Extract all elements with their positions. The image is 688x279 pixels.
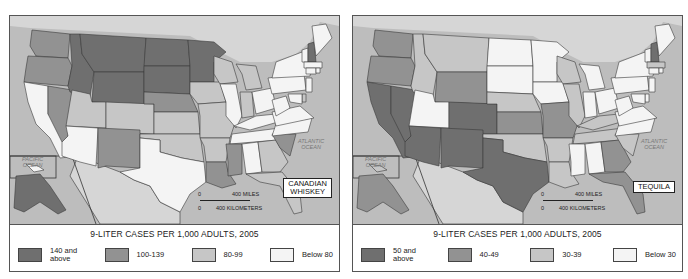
scale-bar: 0 400 MILES 0 400 KILOMETERS bbox=[539, 191, 629, 216]
beverage-label: TEQUILA bbox=[633, 181, 675, 193]
atlantic-ocean-label: ATLANTIC OCEAN bbox=[298, 138, 324, 150]
legend-swatch bbox=[361, 248, 385, 262]
state-wi bbox=[557, 56, 581, 84]
state-ks bbox=[497, 112, 543, 134]
scale-miles-label: 400 MILES bbox=[575, 191, 602, 197]
state-nj bbox=[306, 78, 312, 92]
state-vt bbox=[645, 48, 651, 62]
state-wy bbox=[435, 72, 487, 104]
state-in bbox=[240, 92, 254, 118]
state-ks bbox=[154, 112, 200, 134]
legend-swatch bbox=[105, 248, 129, 262]
state-ma bbox=[304, 62, 322, 68]
legend-label: 80-99 bbox=[224, 251, 243, 259]
state-nd bbox=[144, 38, 190, 66]
legend-label: 140 and above bbox=[50, 247, 77, 263]
legend-title: 9-LITER CASES PER 1,000 ADULTS, 2005 bbox=[353, 229, 682, 239]
legend-item-class-1: 140 and above bbox=[18, 247, 77, 263]
scale-bar: 0 400 MILES 0 400 KILOMETERS bbox=[196, 191, 286, 216]
pacific-ocean-label: PACIFIC OCEAN bbox=[365, 156, 386, 168]
state-in bbox=[583, 92, 597, 118]
scale-km-label: 400 KILOMETERS bbox=[216, 205, 262, 211]
legend: 9-LITER CASES PER 1,000 ADULTS, 2005 50 … bbox=[353, 225, 682, 271]
legend-swatch bbox=[270, 248, 294, 262]
state-mt bbox=[80, 34, 146, 72]
state-ms bbox=[226, 144, 242, 176]
atlantic-ocean-label: ATLANTIC OCEAN bbox=[641, 138, 667, 150]
legend-label: Below 80 bbox=[302, 251, 333, 259]
state-md bbox=[288, 94, 302, 104]
state-ri bbox=[316, 68, 320, 73]
state-de bbox=[645, 94, 649, 102]
legend-swatch bbox=[530, 248, 554, 262]
scale-zero-miles: 0 bbox=[541, 191, 544, 197]
state-ak bbox=[14, 174, 66, 214]
scale-km-label: 400 KILOMETERS bbox=[559, 205, 605, 211]
state-sd bbox=[487, 66, 533, 94]
scale-zero-miles: 0 bbox=[198, 191, 201, 197]
state-ar bbox=[200, 138, 230, 162]
legend-item-class-4: Below 30 bbox=[613, 248, 676, 262]
legend-item-class-3: 80-99 bbox=[192, 248, 243, 262]
state-ms bbox=[569, 144, 585, 176]
legend-label: Below 30 bbox=[645, 251, 676, 259]
state-de bbox=[302, 94, 306, 102]
legend-swatch bbox=[18, 248, 42, 262]
state-wa bbox=[30, 30, 70, 58]
legend-swatch bbox=[448, 248, 472, 262]
state-wi bbox=[214, 56, 238, 84]
state-mt bbox=[423, 34, 489, 72]
state-az bbox=[405, 126, 441, 166]
canadian-whiskey-map-panel: PACIFIC OCEAN ATLANTIC OCEAN CANADIAN WH… bbox=[9, 15, 340, 272]
state-ct bbox=[306, 68, 316, 74]
state-nm bbox=[441, 128, 483, 168]
state-md bbox=[631, 94, 645, 104]
scale-miles-label: 400 MILES bbox=[232, 191, 259, 197]
state-ar bbox=[543, 138, 573, 162]
state-wy bbox=[92, 72, 144, 104]
state-ak bbox=[357, 174, 409, 214]
state-mi bbox=[236, 64, 262, 90]
legend-label: 100-139 bbox=[137, 251, 165, 259]
legend-label: 50 and above bbox=[393, 247, 416, 263]
state-nd bbox=[487, 38, 533, 66]
legend-swatch bbox=[613, 248, 637, 262]
tequila-map-panel: PACIFIC OCEAN ATLANTIC OCEAN TEQUILA 0 4… bbox=[352, 15, 683, 272]
state-ma bbox=[647, 62, 665, 68]
state-wa bbox=[373, 30, 413, 58]
state-or bbox=[24, 56, 72, 86]
legend-item-class-1: 50 and above bbox=[361, 247, 416, 263]
scale-zero-km: 0 bbox=[198, 205, 201, 211]
state-vt bbox=[302, 48, 308, 62]
beverage-label: CANADIAN WHISKEY bbox=[283, 178, 332, 198]
scale-zero-km: 0 bbox=[541, 205, 544, 211]
map-area: PACIFIC OCEAN ATLANTIC OCEAN CANADIAN WH… bbox=[10, 16, 339, 225]
state-sd bbox=[144, 66, 190, 94]
state-az bbox=[62, 126, 98, 166]
state-ct bbox=[649, 68, 659, 74]
state-nj bbox=[649, 78, 655, 92]
legend-item-class-2: 40-49 bbox=[448, 248, 499, 262]
map-area: PACIFIC OCEAN ATLANTIC OCEAN TEQUILA 0 4… bbox=[353, 16, 682, 225]
state-mi bbox=[579, 64, 605, 90]
state-or bbox=[367, 56, 415, 86]
legend-item-class-2: 100-139 bbox=[105, 248, 165, 262]
legend-item-class-4: Below 80 bbox=[270, 248, 333, 262]
state-ri bbox=[659, 68, 663, 73]
legend: 9-LITER CASES PER 1,000 ADULTS, 2005 140… bbox=[10, 225, 339, 271]
legend-label: 30-39 bbox=[562, 251, 581, 259]
pacific-ocean-label: PACIFIC OCEAN bbox=[22, 156, 43, 168]
state-nm bbox=[98, 128, 140, 168]
legend-title: 9-LITER CASES PER 1,000 ADULTS, 2005 bbox=[10, 229, 339, 239]
legend-swatch bbox=[192, 248, 216, 262]
legend-item-class-3: 30-39 bbox=[530, 248, 581, 262]
legend-label: 40-49 bbox=[480, 251, 499, 259]
